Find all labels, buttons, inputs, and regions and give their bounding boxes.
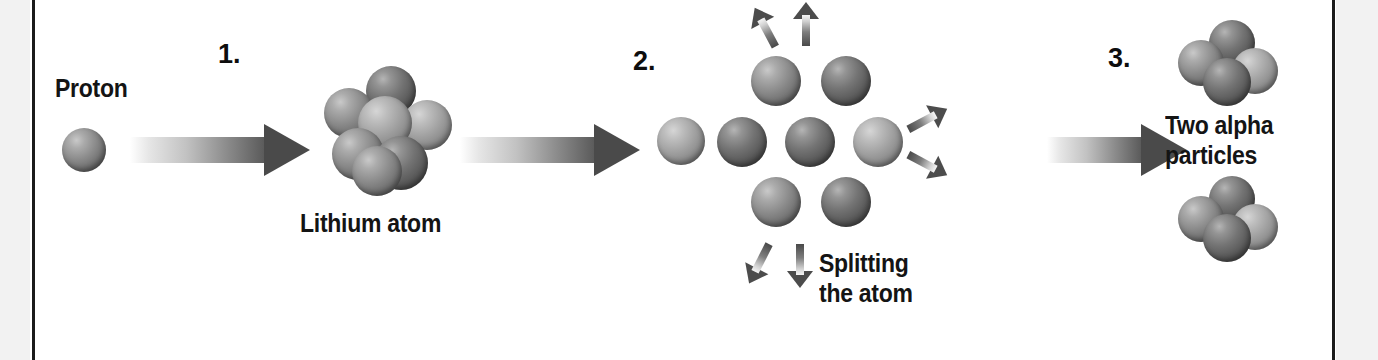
arrow-shaft: [751, 242, 772, 273]
incoming-proton-sphere: [657, 117, 705, 165]
alpha-particle-top: [1178, 20, 1288, 116]
frame-rule-right: [1332, 0, 1335, 360]
splitting-nucleon-top-right: [821, 56, 871, 106]
motion-arrow-up-left: [743, 2, 788, 57]
splitting-nucleon-bottom-right: [821, 177, 871, 227]
page-margin-left: [0, 0, 30, 360]
step-number-3: 3.: [1108, 45, 1131, 72]
arrow-shaft: [796, 244, 804, 275]
alpha-nucleon: [1203, 58, 1251, 106]
arrow-shaft: [130, 137, 264, 163]
alpha-nucleon: [1203, 214, 1251, 262]
arrow-shaft: [906, 151, 937, 173]
diagram-canvas: Proton 1. Lithium atom 2.: [35, 0, 1332, 360]
proton-sphere: [62, 128, 106, 172]
lithium-atom-label: Lithium atom: [300, 208, 441, 238]
splitting-nucleon-mid-center: [785, 117, 835, 167]
motion-arrow-down-right: [899, 141, 954, 186]
arrow-shaft: [906, 111, 937, 133]
process-arrow-2: [460, 124, 640, 176]
alpha-particle-bottom: [1178, 176, 1288, 272]
splitting-the-atom-label: Splitting the atom: [819, 248, 913, 308]
step-number-1: 1.: [218, 41, 241, 68]
arrow-shaft: [1047, 137, 1141, 163]
diagram-page: Proton 1. Lithium atom 2.: [0, 0, 1378, 360]
arrow-head: [264, 124, 310, 176]
splitting-nucleon-mid-left: [717, 117, 767, 167]
arrow-shaft: [802, 15, 810, 46]
motion-arrow-down: [787, 240, 813, 288]
arrow-shaft: [757, 17, 779, 48]
two-alpha-particles-label: Two alpha particles: [1165, 110, 1273, 170]
splitting-nucleon-top-left: [751, 56, 801, 106]
motion-arrow-down-left: [738, 235, 783, 290]
motion-arrow-up: [793, 2, 819, 50]
arrow-shaft: [460, 137, 594, 163]
page-margin-right: [1336, 0, 1378, 360]
process-arrow-1: [130, 124, 310, 176]
motion-arrow-up-right: [899, 97, 954, 142]
splitting-nucleon-mid-right: [853, 117, 903, 167]
lithium-atom-cluster: [318, 66, 458, 202]
arrow-head: [594, 124, 640, 176]
splitting-nucleon-bottom-left: [751, 177, 801, 227]
proton-label: Proton: [55, 73, 127, 103]
lithium-nucleon: [352, 146, 402, 196]
